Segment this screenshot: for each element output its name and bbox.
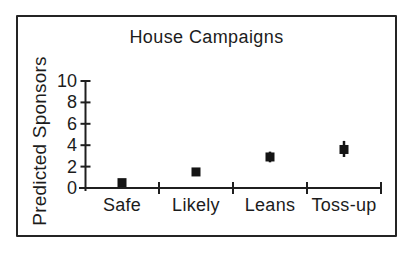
y-tick-label-0: 0 <box>67 178 77 198</box>
category-label-leans: Leans <box>245 195 296 215</box>
data-point-safe <box>118 178 127 187</box>
y-tick-label-6: 6 <box>67 114 77 134</box>
y-tick-label-8: 8 <box>67 92 77 112</box>
y-tick-label-10: 10 <box>57 71 77 91</box>
y-tick-label-4: 4 <box>67 135 77 155</box>
data-point-leans <box>266 152 275 161</box>
y-tick-label-2: 2 <box>67 157 77 177</box>
category-label-likely: Likely <box>172 195 220 215</box>
category-label-toss-up: Toss-up <box>311 195 376 215</box>
figure: House Campaigns Predicted Sponsors 02468… <box>0 0 411 257</box>
category-label-safe: Safe <box>103 195 141 215</box>
plot-area: 0246810SafeLikelyLeansToss-up <box>0 0 411 257</box>
data-point-likely <box>192 167 201 176</box>
data-point-toss-up <box>340 145 349 154</box>
